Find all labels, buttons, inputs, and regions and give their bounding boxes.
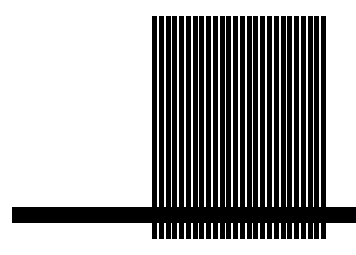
vertical-stripe bbox=[166, 16, 171, 239]
vertical-stripe bbox=[253, 16, 258, 239]
vertical-stripe bbox=[314, 16, 319, 239]
vertical-stripe bbox=[274, 16, 279, 239]
vertical-stripe bbox=[193, 16, 198, 239]
vertical-stripe-block bbox=[152, 16, 328, 239]
vertical-stripe bbox=[179, 16, 184, 239]
vertical-stripe bbox=[159, 16, 164, 239]
vertical-stripe bbox=[267, 16, 272, 239]
vertical-stripe bbox=[281, 16, 286, 239]
vertical-stripe bbox=[226, 16, 231, 239]
vertical-stripe bbox=[301, 16, 306, 239]
vertical-stripe bbox=[308, 16, 313, 239]
vertical-stripe bbox=[213, 16, 218, 239]
vertical-stripe bbox=[186, 16, 191, 239]
horizontal-bar bbox=[12, 207, 356, 223]
vertical-stripe bbox=[206, 16, 211, 239]
vertical-stripe bbox=[247, 16, 252, 239]
vertical-stripe bbox=[152, 16, 157, 239]
vertical-stripe bbox=[233, 16, 238, 239]
vertical-stripe bbox=[199, 16, 204, 239]
vertical-stripe bbox=[172, 16, 177, 239]
vertical-stripe bbox=[220, 16, 225, 239]
vertical-stripe bbox=[287, 16, 292, 239]
vertical-stripe bbox=[240, 16, 245, 239]
vertical-stripe bbox=[321, 16, 326, 239]
vertical-stripe bbox=[260, 16, 265, 239]
vertical-stripe bbox=[294, 16, 299, 239]
